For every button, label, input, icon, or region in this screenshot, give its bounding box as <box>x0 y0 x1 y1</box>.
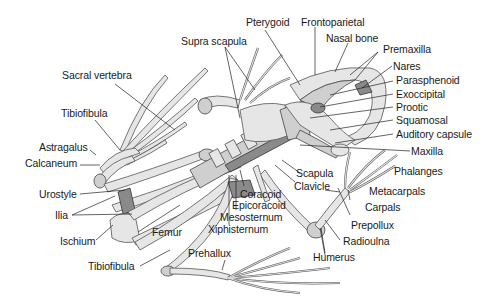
label-parasphenoid: Parasphenoid <box>396 74 460 86</box>
label-auditory-capsule: Auditory capsule <box>396 128 472 140</box>
label-prepollux: Prepollux <box>351 219 394 231</box>
label-exoccipital: Exoccipital <box>396 88 445 100</box>
label-prootic: Prootic <box>396 101 428 113</box>
label-ischium: Ischium <box>60 235 95 247</box>
label-carpals: Carpals <box>365 201 400 213</box>
label-tibiofibula-lower: Tibiofibula <box>88 260 134 272</box>
label-prehallux: Prehallux <box>188 247 231 259</box>
label-epicoracoid: Epicoracoid <box>232 199 286 211</box>
label-nares: Nares <box>393 60 421 72</box>
label-scapula: Scapula <box>296 167 333 179</box>
label-pterygoid: Pterygoid <box>246 16 289 28</box>
label-humerus: Humerus <box>313 251 355 263</box>
label-nasal-bone: Nasal bone <box>326 32 378 44</box>
label-mesosternum: Mesosternum <box>220 211 283 223</box>
label-tibiofibula-upper: Tibiofibula <box>61 107 107 119</box>
label-premaxilla: Premaxilla <box>383 43 431 55</box>
label-sacral-vertebra: Sacral vertebra <box>62 69 132 81</box>
label-maxilla: Maxilla <box>411 145 443 157</box>
label-supra-scapula: Supra scapula <box>181 35 247 47</box>
label-squamosal: Squamosal <box>396 114 448 126</box>
upper-forelimb <box>240 48 290 103</box>
label-femur: Femur <box>152 226 182 238</box>
label-radioulna: Radioulna <box>343 235 389 247</box>
label-metacarpals: Metacarpals <box>369 185 425 197</box>
label-frontoparietal: Frontoparietal <box>301 16 364 28</box>
label-urostyle: Urostyle <box>39 188 77 200</box>
label-ilia: Ilia <box>55 209 68 221</box>
label-xiphisternum: Xiphisternum <box>208 223 268 235</box>
label-calcaneum: Calcaneum <box>25 157 77 169</box>
label-clavicle: Clavicle <box>294 180 330 192</box>
label-phalanges: Phalanges <box>394 165 443 177</box>
label-astragalus: Astragalus <box>39 141 88 153</box>
frog-skeleton-diagram: Pterygoid Frontoparietal Supra scapula N… <box>0 0 492 304</box>
